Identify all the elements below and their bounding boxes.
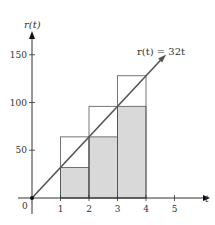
y-tick-label: 150 bbox=[10, 50, 27, 60]
plot-area bbox=[18, 31, 210, 214]
x-tick-label: 1 bbox=[58, 204, 64, 214]
line-annotation: r(t) = 32t bbox=[137, 46, 185, 57]
origin-label: 0 bbox=[22, 201, 28, 211]
x-axis-label: t bbox=[205, 193, 210, 204]
shaded-rectangle bbox=[118, 106, 147, 198]
y-axis-label: r(t) bbox=[24, 19, 41, 30]
x-tick-label: 2 bbox=[86, 204, 92, 214]
x-tick-label: 3 bbox=[115, 204, 121, 214]
y-axis-arrow-icon bbox=[29, 31, 35, 39]
y-tick-label: 100 bbox=[10, 98, 27, 108]
y-tick-labels: 50100150 bbox=[10, 50, 27, 156]
chart: r(t) t 0 r(t) = 32t 12345 50100150 bbox=[0, 0, 215, 225]
origin-point bbox=[30, 196, 34, 200]
x-tick-label: 4 bbox=[143, 204, 149, 214]
x-tick-label: 5 bbox=[172, 204, 178, 214]
y-tick-label: 50 bbox=[16, 145, 28, 155]
x-tick-labels: 12345 bbox=[58, 204, 178, 214]
shaded-rectangle bbox=[89, 137, 118, 198]
shaded-rectangle bbox=[61, 167, 90, 198]
